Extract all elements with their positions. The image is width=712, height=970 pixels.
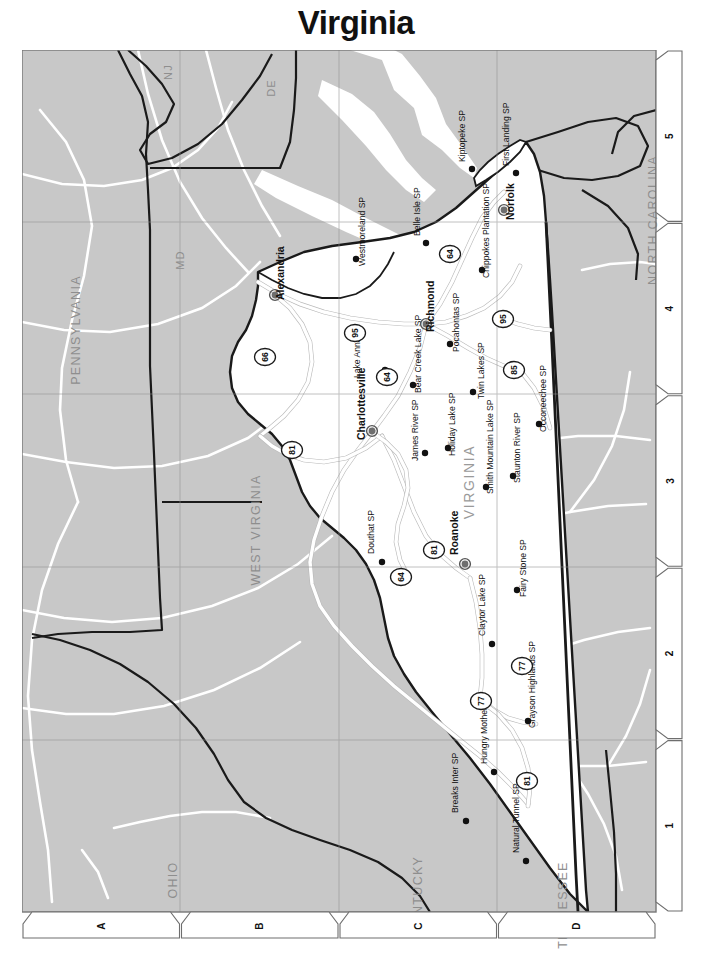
park-dot-icon xyxy=(422,450,428,456)
grid-letter-tab[interactable]: C xyxy=(340,912,497,938)
page-title: Virginia xyxy=(0,4,712,42)
grid-number: 5 xyxy=(665,133,676,139)
park-label: Douthat SP xyxy=(366,510,376,554)
grid-letter-tab[interactable]: A xyxy=(23,912,180,938)
grid-number-tab[interactable]: 3 xyxy=(656,396,682,566)
park-dot-icon xyxy=(489,641,495,647)
park-dot-icon xyxy=(463,818,469,824)
neighbor-state-label: OHIO xyxy=(166,861,180,898)
park-label: Pocahontas SP xyxy=(451,292,461,352)
park-label: Fairy Stone SP xyxy=(518,539,528,597)
neighbor-state-label: PENNSYLVANIA xyxy=(69,275,83,385)
grid-letter: D xyxy=(571,922,582,929)
park-dot-icon xyxy=(423,240,429,246)
park-dot-icon xyxy=(469,166,475,172)
grid-number: 2 xyxy=(665,650,676,656)
interstate-shield[interactable]: 66 xyxy=(255,349,276,366)
park-label: First Landing SP xyxy=(501,102,511,166)
interstate-number: 64 xyxy=(396,572,406,582)
grid-number-tab[interactable]: 1 xyxy=(656,741,682,911)
neighbor-state-label: WEST VIRGINIA xyxy=(249,474,263,585)
virginia-state-label: VIRGINIA xyxy=(461,445,477,519)
interstate-number: 81 xyxy=(287,445,297,455)
city-dot-icon xyxy=(462,561,469,568)
city-label: Norfolk xyxy=(504,183,516,220)
park-label: Kiptopeke SP xyxy=(457,110,467,162)
interstate-shield[interactable]: 85 xyxy=(504,362,525,379)
park-dot-icon xyxy=(523,858,529,864)
park-label: Claytor Lake SP xyxy=(477,574,487,636)
interstate-number: 95 xyxy=(498,314,508,324)
interstate-shield[interactable]: 77 xyxy=(471,693,492,710)
park-marker[interactable]: Staunton River SP xyxy=(510,412,522,483)
park-label: Occoneechee SP xyxy=(538,365,548,432)
grid-number-tab[interactable]: 2 xyxy=(656,568,682,738)
city-label: Alexandria xyxy=(274,246,286,300)
interstate-shield[interactable]: 81 xyxy=(282,442,303,459)
park-label: Belle Isle SP xyxy=(412,187,422,236)
park-marker[interactable]: Chippokes Plantation SP xyxy=(479,183,491,278)
virginia-label: VIRGINIA xyxy=(461,445,477,519)
park-label: Twin Lakes SP xyxy=(476,342,486,399)
park-label: Staunton River SP xyxy=(512,412,522,483)
grid-number-tab[interactable]: 4 xyxy=(656,223,682,393)
grid-number-tab[interactable]: 5 xyxy=(656,51,682,221)
interstate-number: 85 xyxy=(509,365,519,375)
interstate-number: 95 xyxy=(350,328,360,338)
grid-letter: C xyxy=(413,922,424,929)
interstate-shield[interactable]: 95 xyxy=(493,311,514,328)
interstate-shield[interactable]: 81 xyxy=(424,542,445,559)
park-dot-icon xyxy=(491,769,497,775)
grid-letter-tab[interactable]: D xyxy=(499,912,656,938)
park-label: James River SP xyxy=(410,399,420,461)
map-container[interactable]: NJDEMDPENNSYLVANIAWEST VIRGINIAOHIOKENTU… xyxy=(22,50,690,950)
park-dot-icon xyxy=(513,170,519,176)
park-label: Breaks Inter SP xyxy=(450,753,460,813)
city-label: Roanoke xyxy=(448,510,460,555)
city-label: Richmond xyxy=(424,281,436,332)
park-label: Smith Mountain Lake SP xyxy=(485,399,495,494)
park-label: Chippokes Plantation SP xyxy=(481,183,491,278)
grid-number: 3 xyxy=(665,478,676,484)
interstate-shield[interactable]: 64 xyxy=(391,569,412,586)
city-dot-icon xyxy=(369,428,376,435)
park-marker[interactable]: Smith Mountain Lake SP xyxy=(483,399,495,494)
interstate-number: 81 xyxy=(522,776,532,786)
interstate-number: 77 xyxy=(517,661,527,671)
park-label: Grayson Highlands SP xyxy=(527,641,537,728)
interstate-shield[interactable]: 81 xyxy=(517,773,538,790)
neighbor-state-label: NJ xyxy=(162,64,174,80)
interstate-number: 66 xyxy=(260,352,270,362)
park-label: Westmoreland SP xyxy=(357,197,367,266)
interstate-shield[interactable]: 64 xyxy=(377,369,398,386)
grid-number: 1 xyxy=(665,823,676,829)
park-label: Holiday Lake SP xyxy=(447,392,457,456)
park-dot-icon xyxy=(379,559,385,565)
grid-letter-tabs[interactable]: ABCD xyxy=(23,912,655,938)
interstate-shield[interactable]: 77 xyxy=(512,658,533,675)
grid-number-tabs[interactable]: 54321 xyxy=(656,51,682,911)
grid-number: 4 xyxy=(665,305,676,311)
interstate-number: 64 xyxy=(445,249,455,259)
grid-letter: B xyxy=(254,922,265,929)
interstate-number: 81 xyxy=(429,545,439,555)
neighbor-state-label: MD xyxy=(174,250,186,270)
grid-letter-tab[interactable]: B xyxy=(182,912,339,938)
grid-letter: A xyxy=(96,922,107,929)
interstate-shield[interactable]: 95 xyxy=(345,325,366,342)
interstate-number: 64 xyxy=(382,372,392,382)
city-label: Charlottesville xyxy=(355,367,367,440)
interstate-number: 77 xyxy=(476,696,486,706)
park-marker[interactable]: Occoneechee SP xyxy=(536,365,548,432)
park-label: Natural Tunnel SP xyxy=(511,783,521,853)
interstate-shield[interactable]: 64 xyxy=(440,246,461,263)
park-marker[interactable]: Holiday Lake SP xyxy=(445,392,457,456)
park-marker[interactable]: Grayson Highlands SP xyxy=(525,641,537,728)
neighbor-state-label: DE xyxy=(265,79,277,97)
